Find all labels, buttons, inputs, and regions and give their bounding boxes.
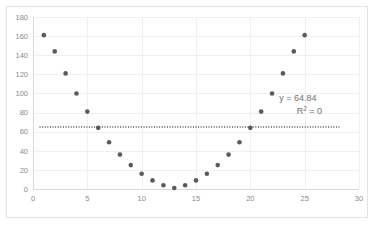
data-point[interactable]	[63, 71, 68, 76]
data-point[interactable]	[52, 49, 57, 54]
data-point[interactable]	[85, 109, 90, 114]
x-tick-label: 5	[85, 194, 89, 203]
r2-suffix: = 0	[307, 106, 322, 116]
y-tick-label: 100	[15, 89, 28, 98]
y-tick-label: 140	[15, 51, 28, 60]
data-point[interactable]	[226, 152, 231, 157]
y-tick-label: 120	[15, 70, 28, 79]
data-point[interactable]	[302, 33, 307, 38]
chart-container[interactable]: 020406080100120140160180 051015202530 y …	[6, 6, 368, 218]
y-tick-label: 40	[20, 147, 28, 156]
data-point[interactable]	[270, 91, 275, 96]
x-tick-label: 0	[31, 194, 35, 203]
data-point[interactable]	[248, 126, 253, 131]
data-point[interactable]	[96, 126, 101, 131]
x-tick-label: 20	[246, 194, 254, 203]
trendline-r2-label: R2 = 0	[297, 105, 322, 117]
y-tick-label: 180	[15, 13, 28, 22]
data-point[interactable]	[259, 109, 264, 114]
data-point[interactable]	[237, 140, 242, 145]
data-point[interactable]	[107, 140, 112, 145]
y-tick-label: 0	[24, 185, 28, 194]
y-tick-label: 160	[15, 32, 28, 41]
data-point[interactable]	[129, 163, 134, 168]
scatter-plot[interactable]: 020406080100120140160180 051015202530 y …	[7, 7, 367, 217]
data-point[interactable]	[292, 49, 297, 54]
x-tick-label: 10	[137, 194, 145, 203]
data-point[interactable]	[205, 171, 210, 176]
data-point[interactable]	[150, 178, 155, 183]
data-point[interactable]	[139, 171, 144, 176]
data-point[interactable]	[194, 178, 199, 183]
y-tick-label: 20	[20, 166, 28, 175]
data-point[interactable]	[172, 186, 177, 191]
x-tick-label: 30	[355, 194, 363, 203]
data-point[interactable]	[74, 91, 79, 96]
x-tick-label: 25	[300, 194, 308, 203]
data-point[interactable]	[183, 183, 188, 188]
data-point[interactable]	[281, 71, 286, 76]
x-tick-label: 15	[192, 194, 200, 203]
data-point[interactable]	[118, 152, 123, 157]
data-point[interactable]	[215, 163, 220, 168]
y-tick-label: 60	[20, 127, 28, 136]
trendline-equation-label: y = 64.84	[279, 93, 316, 103]
y-tick-label: 80	[20, 108, 28, 117]
data-point[interactable]	[42, 33, 47, 38]
data-point[interactable]	[161, 183, 166, 188]
